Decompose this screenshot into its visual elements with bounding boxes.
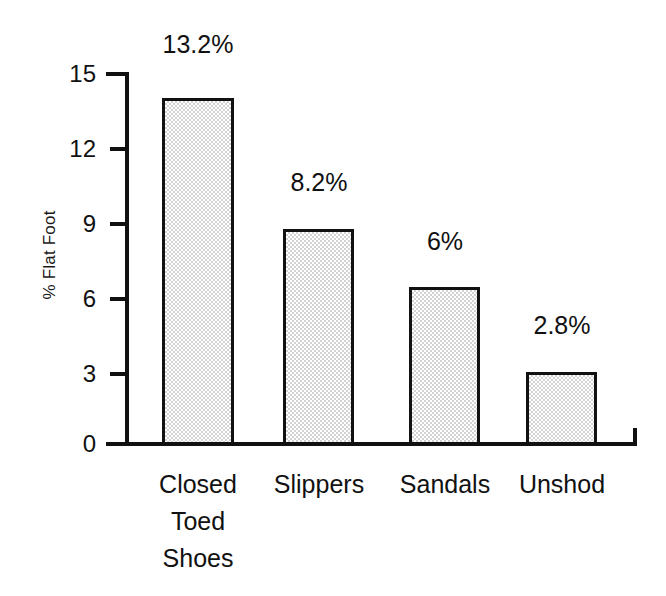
y-tick-mark-0 <box>106 442 125 446</box>
category-label-sandals: Sandals <box>381 466 509 503</box>
y-tick-mark-15 <box>106 72 125 76</box>
y-axis-title: % Flat Foot <box>40 165 60 345</box>
bar-value-label-slippers: 8.2% <box>259 168 379 196</box>
y-tick-label-12: 12 <box>44 137 96 161</box>
category-label-unshod: Unshod <box>498 466 626 503</box>
y-tick-label-0: 0 <box>44 432 96 456</box>
bar-value-label-unshod: 2.8% <box>502 311 622 339</box>
y-tick-label-15: 15 <box>44 62 96 86</box>
category-label-line-3: Shoes <box>138 540 258 577</box>
bar-unshod <box>526 372 597 445</box>
bar-slippers <box>283 229 354 445</box>
y-tick-mark-6 <box>110 297 125 301</box>
y-axis-line <box>125 72 129 446</box>
y-tick-label-9: 9 <box>44 212 96 236</box>
y-tick-mark-3 <box>110 372 125 376</box>
y-tick-mark-12 <box>110 147 125 151</box>
bar-closed-toed-shoes <box>162 98 234 445</box>
category-label-closed-toed-shoes: Closed Toed Shoes <box>138 466 258 577</box>
category-label-line-1: Slippers <box>255 466 383 503</box>
category-label-slippers: Slippers <box>255 466 383 503</box>
bar-chart: % Flat Foot 15 12 9 6 3 0 13.2% 8.2% 6% … <box>0 0 666 596</box>
y-tick-label-3: 3 <box>44 362 96 386</box>
category-label-line-1: Unshod <box>498 466 626 503</box>
category-label-line-2: Toed <box>138 503 258 540</box>
category-label-line-1: Closed <box>138 466 258 503</box>
category-label-line-1: Sandals <box>381 466 509 503</box>
x-axis-end-tick <box>633 428 637 446</box>
bar-value-label-sandals: 6% <box>385 227 505 255</box>
bar-value-label-closed-toed-shoes: 13.2% <box>138 30 258 58</box>
bar-sandals <box>409 287 480 445</box>
y-tick-label-6: 6 <box>44 287 96 311</box>
y-tick-mark-9 <box>110 222 125 226</box>
